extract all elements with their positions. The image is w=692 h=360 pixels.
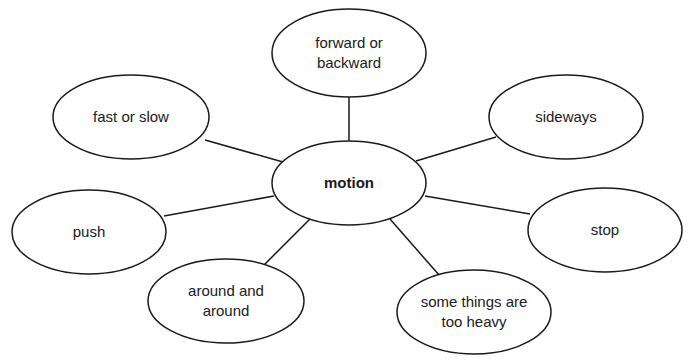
connector-fast <box>205 140 283 162</box>
concept-web-canvas <box>0 0 692 360</box>
node-forward-ellipse <box>272 9 426 97</box>
connector-heavy <box>390 219 439 275</box>
connector-around <box>261 219 310 268</box>
node-fast-ellipse <box>53 75 209 159</box>
connector-sideways <box>416 137 496 161</box>
node-stop-ellipse <box>528 188 682 272</box>
node-push-ellipse <box>12 190 166 274</box>
node-heavy-ellipse <box>397 270 551 354</box>
connector-stop <box>425 196 530 214</box>
node-around-ellipse <box>148 259 304 343</box>
center-motion-ellipse <box>272 141 426 225</box>
connector-push <box>164 196 274 216</box>
node-sideways-ellipse <box>489 75 643 159</box>
